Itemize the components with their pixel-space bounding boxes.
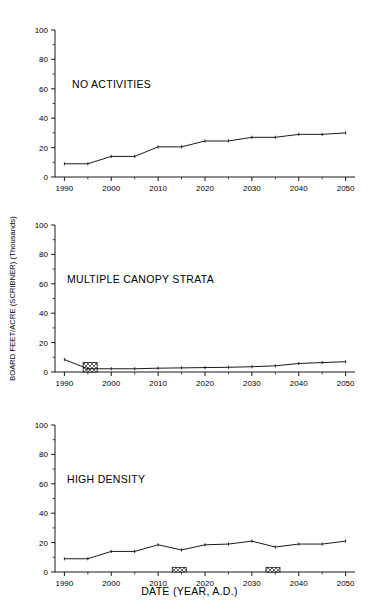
y-tick-label: 80: [39, 450, 48, 459]
chart-panel: 0204060801001990200020102020203020402050…: [35, 221, 355, 388]
y-tick-label: 100: [35, 221, 49, 230]
y-tick-label: 60: [39, 480, 48, 489]
x-tick-label: 2010: [149, 184, 167, 193]
y-tick-label: 20: [39, 339, 48, 348]
x-tick-label: 2040: [290, 184, 308, 193]
y-tick-label: 60: [39, 280, 48, 289]
treatment-bar: [83, 362, 97, 372]
x-tick-label: 2030: [243, 184, 261, 193]
y-tick-label: 20: [39, 144, 48, 153]
x-tick-label: 2050: [337, 184, 355, 193]
panel-group: 0204060801001990200020102020203020402050…: [35, 26, 355, 588]
treatment-bar: [266, 567, 280, 572]
y-tick-label: 0: [44, 368, 49, 377]
x-tick-label: 2020: [196, 379, 214, 388]
panel-title: HIGH DENSITY: [67, 473, 145, 485]
y-tick-label: 40: [39, 509, 48, 518]
y-tick-label: 40: [39, 114, 48, 123]
treatment-bar: [172, 567, 186, 572]
y-tick-label: 0: [44, 173, 49, 182]
data-series-line: [64, 133, 345, 164]
x-tick-label: 1990: [55, 184, 73, 193]
x-tick-label: 2050: [337, 379, 355, 388]
y-axis-title: BOARD FEET/ACRE (SCRIBNER) (Thousands): [8, 199, 17, 399]
y-tick-label: 80: [39, 250, 48, 259]
y-tick-label: 0: [44, 568, 49, 577]
y-tick-label: 80: [39, 55, 48, 64]
chart-panel: 0204060801001990200020102020203020402050…: [35, 26, 355, 193]
y-tick-label: 20: [39, 539, 48, 548]
x-tick-label: 2020: [196, 184, 214, 193]
chart-panel: 0204060801001990200020102020203020402050…: [35, 421, 355, 588]
chart-canvas: 0204060801001990200020102020203020402050…: [0, 0, 379, 611]
x-tick-label: 2000: [102, 184, 120, 193]
x-axis-title: DATE (YEAR, A.D.): [0, 585, 379, 597]
x-tick-label: 2030: [243, 379, 261, 388]
y-tick-label: 100: [35, 26, 49, 35]
panel-title: MULTIPLE CANOPY STRATA: [67, 273, 214, 285]
y-tick-label: 40: [39, 309, 48, 318]
x-tick-label: 2040: [290, 379, 308, 388]
y-tick-label: 100: [35, 421, 49, 430]
x-tick-label: 2000: [102, 379, 120, 388]
x-tick-label: 2010: [149, 379, 167, 388]
panel-title: NO ACTIVITIES: [72, 78, 151, 90]
x-tick-label: 1990: [55, 379, 73, 388]
figure-root: BOARD FEET/ACRE (SCRIBNER) (Thousands) 0…: [0, 0, 379, 611]
y-tick-label: 60: [39, 85, 48, 94]
